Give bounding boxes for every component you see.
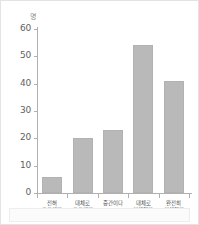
- bar-slot: [98, 29, 128, 193]
- bar-slot: [128, 29, 158, 193]
- y-axis-tick-label: 50: [20, 50, 31, 60]
- y-axis-tick-label: 30: [20, 105, 31, 115]
- bar[interactable]: [103, 130, 123, 193]
- x-axis-tick-mark: [37, 194, 38, 198]
- bar[interactable]: [73, 138, 93, 193]
- bar[interactable]: [42, 177, 62, 193]
- plot-area: [37, 29, 189, 193]
- x-axis-tick-mark: [159, 194, 160, 198]
- x-axis-category-label-line: 완전히: [164, 200, 184, 207]
- bar[interactable]: [164, 81, 184, 193]
- y-axis-tick-label: 60: [20, 23, 31, 33]
- x-axis-category-label-line: 대체로: [133, 200, 153, 207]
- bar-chart-figure: 명 0102030405060 전혀모르겠다대체로모르겠다중간이다대체로이해했다…: [0, 0, 199, 225]
- bar[interactable]: [133, 45, 153, 193]
- bar-slot: [67, 29, 97, 193]
- y-axis-tick-label: 40: [20, 78, 31, 88]
- x-axis-tick-mark: [98, 194, 99, 198]
- x-axis-category-label-line: 대체로: [73, 200, 93, 207]
- x-axis-tick-mark: [67, 194, 68, 198]
- y-axis-unit-label: 명: [30, 11, 36, 21]
- x-axis-category-label: 중간이다: [103, 200, 123, 207]
- y-axis-tick-label: 10: [20, 160, 31, 170]
- bar-slot: [159, 29, 189, 193]
- x-axis-tick-mark: [128, 194, 129, 198]
- y-axis-tick-label: 0: [25, 187, 31, 197]
- y-axis-tick-label: 20: [20, 132, 31, 142]
- x-axis-category-label-line: 전혀: [42, 200, 62, 207]
- x-axis-category-label-line: 중간이다: [103, 200, 123, 207]
- bottom-panel-strip: [9, 208, 190, 222]
- bar-slot: [37, 29, 67, 193]
- x-axis-line: [37, 193, 192, 194]
- x-axis-tick-mark: [189, 194, 190, 198]
